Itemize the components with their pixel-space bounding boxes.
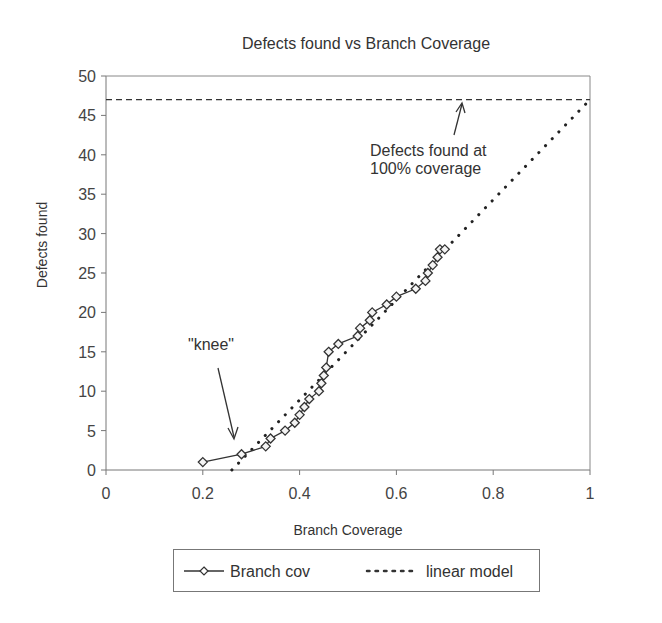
annotation-100pct-line1: Defects found at: [370, 142, 487, 159]
data-point: [261, 442, 270, 451]
data-point: [428, 261, 437, 270]
annotation-knee: "knee": [188, 336, 238, 439]
x-tick-label: 1: [586, 485, 595, 502]
y-tick-label: 35: [78, 186, 96, 203]
legend: Branch cov linear model: [173, 549, 540, 592]
x-tick-label: 0.2: [192, 485, 214, 502]
x-axis-label: Branch Coverage: [294, 522, 403, 538]
data-point: [300, 402, 309, 411]
x-tick-label: 0.4: [288, 485, 310, 502]
x-tick-label: 0.8: [482, 485, 504, 502]
annotation-100pct-line2: 100% coverage: [370, 160, 481, 177]
x-tick-label: 0: [102, 485, 111, 502]
annotation-100pct: Defects found at 100% coverage: [370, 103, 487, 177]
y-tick-label: 20: [78, 304, 96, 321]
chart-title: Defects found vs Branch Coverage: [242, 35, 490, 52]
chart-canvas: Defects found vs Branch Coverage 0510152…: [0, 0, 662, 623]
legend-item-linear-model: linear model: [367, 563, 513, 580]
y-tick-label: 45: [78, 107, 96, 124]
data-point: [368, 308, 377, 317]
legend-item-branch-cov: Branch cov: [184, 563, 310, 580]
data-point: [295, 410, 304, 419]
data-point: [353, 332, 362, 341]
y-tick-label: 25: [78, 265, 96, 282]
y-tick-label: 50: [78, 68, 96, 85]
diamond-marker-icon: [200, 567, 208, 575]
y-tick-label: 0: [87, 462, 96, 479]
annotation-knee-label: "knee": [188, 336, 234, 353]
y-tick-label: 10: [78, 383, 96, 400]
y-axis-label: Defects found: [34, 202, 50, 288]
y-tick-label: 15: [78, 344, 96, 361]
y-tick-label: 5: [87, 423, 96, 440]
legend-label-branch-cov: Branch cov: [230, 563, 310, 580]
data-point: [433, 253, 442, 262]
data-point: [198, 458, 207, 467]
y-tick-label: 30: [78, 226, 96, 243]
axes: 0510152025303540455000.20.40.60.81: [78, 68, 594, 502]
data-point: [266, 434, 275, 443]
x-tick-label: 0.6: [385, 485, 407, 502]
data-point: [322, 363, 331, 372]
legend-label-linear-model: linear model: [426, 563, 513, 580]
data-point: [319, 371, 328, 380]
y-tick-label: 40: [78, 147, 96, 164]
